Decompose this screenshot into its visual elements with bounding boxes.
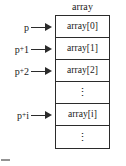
pointer-annotation-p-plus-1: p+1: [3, 42, 53, 56]
pointer-label: p: [3, 22, 31, 33]
pointer-annotation-p-plus-i: p+i: [3, 108, 53, 122]
array-cell: array[i]: [56, 104, 109, 126]
array-cell-ellipsis: ⋮: [56, 126, 109, 148]
array-cell-label: array[1]: [67, 43, 98, 54]
pointer-annotation-p: p: [3, 20, 53, 34]
arrow-right-icon: [31, 23, 53, 32]
clipped-caption-strip: [0, 157, 126, 166]
array-cell-label: array[i]: [68, 109, 97, 120]
diagram-title: array: [55, 1, 110, 13]
pointer-label: p+i: [3, 110, 31, 121]
array-cell-label: array[0]: [67, 21, 98, 32]
array-cell: array[1]: [56, 38, 109, 60]
arrow-right-icon: [31, 45, 53, 54]
array-cell: array[0]: [56, 16, 109, 38]
array-cell-ellipsis: ⋮: [56, 82, 109, 104]
pointer-label: p+2: [3, 66, 31, 77]
arrow-right-icon: [31, 67, 53, 76]
array-cell-label: array[2]: [67, 65, 98, 76]
pointer-annotation-p-plus-2: p+2: [3, 64, 53, 78]
array-cell-stack: array[0] array[1] array[2] ⋮ array[i] ⋮: [55, 15, 110, 149]
array-pointer-diagram: array array[0] array[1] array[2] ⋮ array…: [0, 0, 126, 166]
array-cell: array[2]: [56, 60, 109, 82]
arrow-right-icon: [31, 111, 53, 120]
pointer-label: p+1: [3, 44, 31, 55]
vertical-ellipsis-icon: ⋮: [77, 87, 88, 98]
caption-dash: [1, 159, 10, 161]
vertical-ellipsis-icon: ⋮: [77, 131, 88, 142]
